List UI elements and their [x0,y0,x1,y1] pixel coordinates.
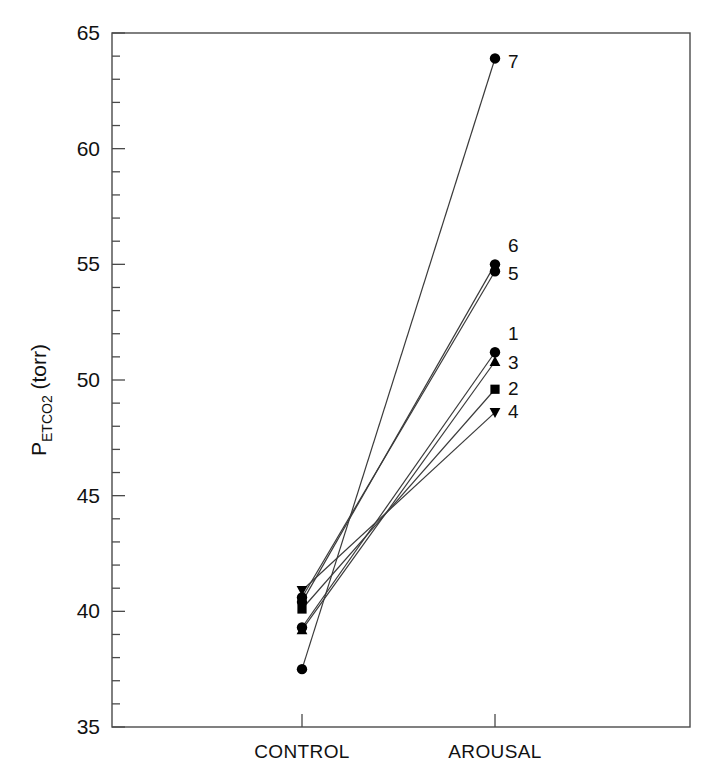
point-label-7: 7 [508,51,519,72]
series-line-4 [302,412,495,590]
data-point-1-arousal [490,347,500,357]
series-point-labels: 7651324 [508,51,519,422]
point-label-3: 3 [508,352,519,373]
point-label-6: 6 [508,235,519,256]
x-category-label-arousal: AROUSAL [448,741,542,762]
y-tick-label: 60 [77,137,100,160]
x-category-label-control: CONTROL [254,741,350,762]
point-label-5: 5 [508,263,519,284]
y-tick-label: 65 [77,21,100,44]
x-axis-ticks [302,714,495,727]
data-point-6-arousal [490,259,500,269]
y-tick-label: 45 [77,484,100,507]
y-axis-title-suffix: (torr) [27,344,50,395]
data-point-7-arousal [490,53,500,63]
figure-container: 35404550556065 CONTROLAROUSAL 7651324 PE… [0,0,718,780]
point-label-2: 2 [508,378,519,399]
point-label-1: 1 [508,323,519,344]
series-line-6 [302,264,495,602]
y-axis-title-prefix: P [27,442,50,456]
data-point-7-control [297,664,307,674]
y-axis-title-subscript: ETCO2 [39,395,55,442]
y-tick-label: 55 [77,252,100,275]
y-tick-label: 50 [77,368,100,391]
x-axis-category-labels: CONTROLAROUSAL [254,741,542,762]
plot-frame [112,33,690,727]
y-axis-title: PETCO2 (torr) [27,344,55,456]
y-axis-tick-labels: 35404550556065 [77,21,100,738]
line-chart: 35404550556065 CONTROLAROUSAL 7651324 PE… [0,0,718,780]
data-point-6-control [297,597,307,607]
series-line-1 [302,352,495,627]
series-line-7 [302,58,495,669]
point-label-4: 4 [508,401,519,422]
series-line-3 [302,361,495,629]
y-tick-label: 40 [77,599,100,622]
data-point-2-arousal [490,385,499,394]
series-lines [302,58,495,669]
y-axis-ticks [112,33,125,727]
y-axis-title-text: PETCO2 (torr) [27,344,55,456]
y-tick-label: 35 [77,715,100,738]
